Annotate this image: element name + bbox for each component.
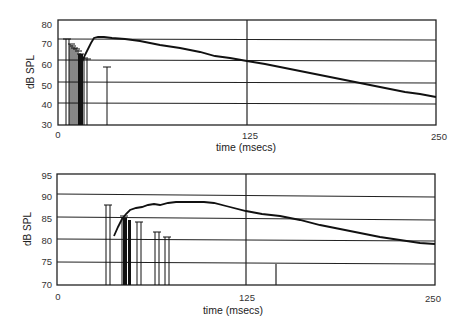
top-y-axis-label: dB SPL (25, 55, 36, 89)
y-tick: 40 (41, 99, 52, 110)
y-tick: 80 (41, 235, 52, 246)
top-envelope-line (82, 37, 436, 97)
y-tick: 70 (41, 279, 52, 290)
y-tick: 80 (41, 19, 52, 30)
top-gridlines (58, 20, 436, 125)
top-y-ticks: 80 70 60 50 40 30 (41, 19, 52, 130)
bottom-gridlines (57, 174, 435, 285)
top-chart: 80 70 60 50 40 30 dB SPL 0 125 250 time … (25, 19, 447, 153)
x-tick: 250 (425, 293, 441, 304)
bottom-x-ticks: 0 125 250 (55, 291, 441, 304)
top-dense-reflections (78, 54, 83, 125)
y-tick: 30 (41, 119, 52, 130)
x-tick: 125 (242, 130, 258, 141)
x-tick: 125 (239, 292, 255, 303)
x-tick: 0 (55, 291, 60, 302)
bottom-dense-reflection (128, 220, 131, 285)
bottom-y-axis-label: dB SPL (22, 212, 33, 246)
x-tick: 250 (431, 131, 447, 142)
bottom-x-axis-label: time (msecs) (203, 304, 263, 316)
bottom-dense-reflection (123, 218, 127, 285)
top-x-axis-label: time (msecs) (216, 141, 276, 153)
y-tick: 70 (41, 38, 52, 49)
y-tick: 50 (41, 80, 52, 91)
bottom-y-ticks: 95 90 85 80 75 70 (41, 170, 52, 290)
figure: 80 70 60 50 40 30 dB SPL 0 125 250 time … (0, 0, 466, 336)
bottom-envelope-line (114, 202, 435, 244)
y-tick: 95 (41, 170, 52, 181)
y-tick: 75 (41, 256, 52, 267)
x-tick: 0 (55, 129, 60, 140)
y-tick: 90 (41, 191, 52, 202)
y-tick: 60 (41, 59, 52, 70)
bottom-chart: 95 90 85 80 75 70 dB SPL 0 125 250 time … (22, 170, 441, 316)
y-tick: 85 (41, 213, 52, 224)
